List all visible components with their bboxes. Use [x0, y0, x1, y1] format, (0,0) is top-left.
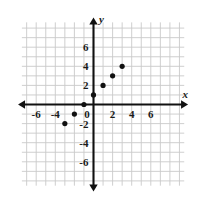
y-tick-label: -6	[79, 156, 89, 168]
y-tick-label: -2	[79, 118, 89, 130]
x-tick-label: -4	[51, 108, 61, 120]
data-point-marker	[100, 83, 105, 88]
data-point-marker	[110, 73, 115, 78]
data-point-marker	[91, 92, 96, 97]
x-axis-arrow-right	[181, 100, 188, 108]
data-point-marker	[81, 102, 86, 107]
y-tick-label: 6	[83, 41, 89, 53]
data-point-marker	[62, 121, 67, 126]
y-axis-arrow-up	[89, 18, 97, 25]
x-axis-name-label: x	[181, 88, 188, 100]
coordinate-plane-svg: -6-40246642-2-4-6 xy	[0, 0, 206, 206]
x-axis-arrow-left	[18, 100, 25, 108]
x-tick-label: -6	[32, 108, 42, 120]
axis-names: xy	[97, 13, 188, 100]
y-tick-label: 2	[83, 79, 89, 91]
y-tick-label: -4	[79, 137, 89, 149]
data-point-marker	[120, 64, 125, 69]
y-axis-arrow-down	[89, 184, 97, 191]
x-tick-label: 6	[148, 108, 154, 120]
x-tick-label: 4	[129, 108, 135, 120]
coordinate-plane-figure: -6-40246642-2-4-6 xy	[0, 0, 206, 206]
y-tick-label: 4	[83, 60, 89, 72]
data-point-marker	[72, 111, 77, 116]
x-tick-label: 2	[110, 108, 116, 120]
y-axis-name-label: y	[97, 13, 104, 25]
